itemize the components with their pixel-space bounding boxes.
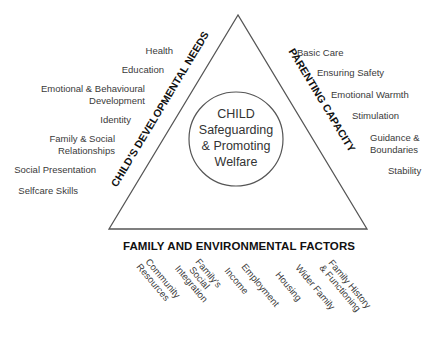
right-item-guidance-line2: Boundaries — [370, 144, 418, 155]
bottom-items: Community Resources Family's Social Inte… — [135, 250, 374, 317]
left-item-family-social: Family & Social — [50, 133, 115, 144]
center-line-3: & Promoting — [202, 139, 271, 153]
right-item-stability: Stability — [388, 165, 422, 176]
left-item-selfcare-skills: Selfcare Skills — [18, 185, 78, 196]
left-item-education: Education — [122, 64, 164, 75]
bottom-side-title: FAMILY AND ENVIRONMENTAL FACTORS — [123, 240, 355, 252]
center-line-2: Safeguarding — [199, 123, 273, 137]
right-item-emotional-warmth: Emotional Warmth — [331, 89, 409, 100]
right-item-guidance: Guidance & — [370, 132, 420, 143]
right-item-basic-care: Basic Care — [297, 47, 343, 58]
left-item-health: Health — [146, 45, 173, 56]
left-item-social-presentation: Social Presentation — [14, 164, 96, 175]
left-item-family-social-line2: Relationships — [58, 145, 115, 156]
center-label: CHILD Safeguarding & Promoting Welfare — [199, 107, 273, 169]
assessment-triangle-diagram: CHILD Safeguarding & Promoting Welfare C… — [0, 0, 439, 337]
right-item-stimulation: Stimulation — [352, 110, 399, 121]
bottom-item-family-social-integration: Family's Social Integration — [173, 250, 226, 304]
bottom-item-community-resources: Community Resources — [135, 255, 183, 307]
right-item-ensuring-safety: Ensuring Safety — [317, 67, 384, 78]
center-line-1: CHILD — [217, 107, 255, 121]
right-items: Basic Care Ensuring Safety Emotional War… — [297, 47, 422, 176]
left-item-emotional-behavioural-line2: Development — [89, 95, 145, 106]
left-item-emotional-behavioural: Emotional & Behavioural — [41, 83, 145, 94]
center-line-4: Welfare — [215, 155, 258, 169]
left-item-identity: Identity — [100, 114, 131, 125]
